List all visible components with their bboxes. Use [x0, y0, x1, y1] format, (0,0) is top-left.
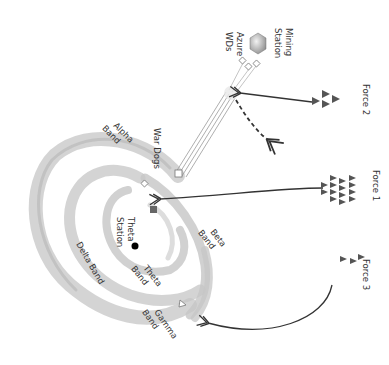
labels: MiningStation AzureWDs Force 2 Force 1 F… — [74, 28, 381, 346]
force-3-label: Force 3 — [361, 259, 371, 290]
war-dogs-square[interactable] — [175, 170, 182, 177]
force-1-triangles[interactable] — [321, 175, 356, 205]
mining-cluster — [224, 86, 238, 100]
force-1-arrow — [160, 188, 323, 199]
mining-station-label: MiningStation — [273, 28, 294, 58]
theta-station-label: ThetaStation — [115, 216, 136, 247]
mining-station-hexagon[interactable] — [250, 33, 266, 54]
force-2-label: Force 2 — [361, 84, 371, 115]
force-3-arrow — [208, 285, 332, 329]
enemy-square[interactable] — [150, 206, 157, 213]
battle-map-diagram: MiningStation AzureWDs Force 2 Force 1 F… — [0, 0, 389, 365]
force-2-arrow — [240, 93, 312, 102]
supply-lines — [176, 92, 235, 177]
azure-wds-label: AzureWDs — [224, 32, 245, 56]
force-1-label: Force 1 — [371, 170, 381, 201]
force-2-dashed-arrow — [236, 100, 268, 140]
war-dogs-label: War Dogs — [152, 128, 162, 169]
azure-wd-diamonds[interactable] — [239, 57, 260, 70]
theta-station-dot[interactable] — [132, 243, 139, 250]
force-2-triangles[interactable] — [312, 90, 340, 108]
